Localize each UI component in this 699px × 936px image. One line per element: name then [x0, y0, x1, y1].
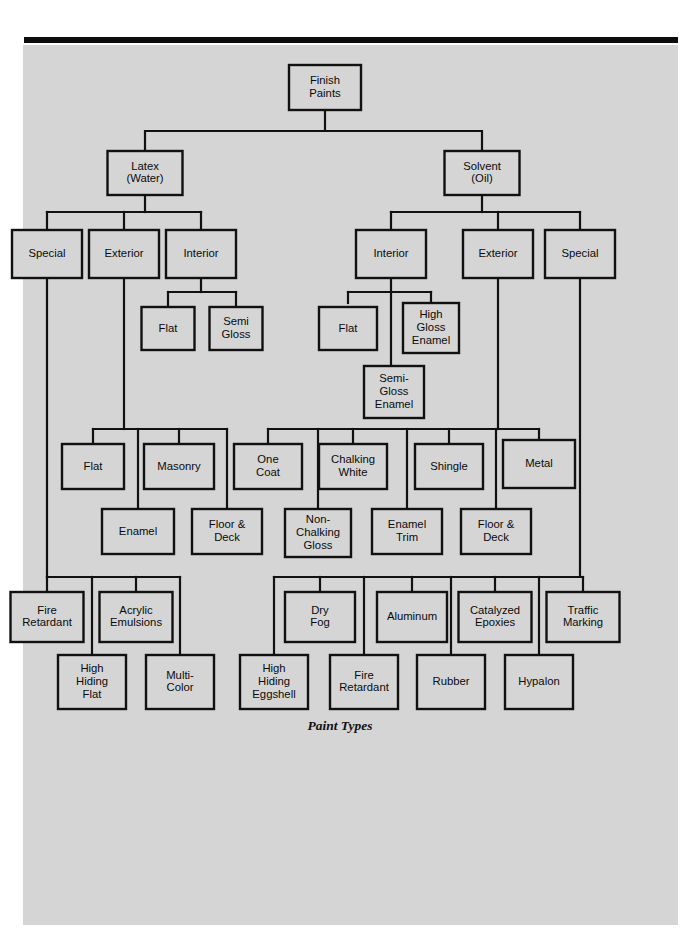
- node-label-le_masonry: Masonry: [157, 459, 201, 471]
- node-latex[interactable]: Latex(Water): [108, 151, 183, 195]
- node-finish_paints[interactable]: FinishPaints: [289, 65, 361, 110]
- node-latex_exterior[interactable]: Exterior: [89, 230, 159, 278]
- node-label-solvent_exterior: Exterior: [479, 247, 518, 259]
- diagram-caption: Paint Types: [307, 718, 372, 733]
- node-se_enamel_trim[interactable]: EnamelTrim: [372, 509, 442, 554]
- node-label-lsp_multi_color: Multi-Color: [166, 669, 194, 694]
- node-solvent[interactable]: Solvent(Oil): [445, 151, 520, 195]
- page-canvas: FinishPaintsLatex(Water)Solvent(Oil)Spec…: [0, 0, 699, 936]
- node-label-si_semi_gloss_enamel: Semi-GlossEnamel: [375, 372, 413, 409]
- node-lsp_acrylic_emulsions[interactable]: AcrylicEmulsions: [100, 592, 173, 642]
- paint-types-tree-diagram: FinishPaintsLatex(Water)Solvent(Oil)Spec…: [0, 0, 699, 936]
- node-layer: FinishPaintsLatex(Water)Solvent(Oil)Spec…: [11, 65, 620, 709]
- node-label-le_flat: Flat: [84, 459, 104, 471]
- node-label-latex_interior: Interior: [183, 247, 218, 259]
- node-label-ssp_catalyzed_epoxies: CatalyzedEpoxies: [470, 604, 520, 629]
- node-latex_interior[interactable]: Interior: [166, 230, 236, 278]
- node-si_high_gloss_enamel[interactable]: HighGlossEnamel: [403, 303, 459, 353]
- node-si_flat[interactable]: Flat: [319, 307, 377, 350]
- node-solvent_interior[interactable]: Interior: [356, 230, 426, 278]
- node-li_semi_gloss[interactable]: SemiGloss: [210, 307, 263, 350]
- node-ssp_fire_retardant[interactable]: FireRetardant: [330, 655, 398, 709]
- node-label-latex_special: Special: [28, 247, 65, 259]
- node-se_floor_deck[interactable]: Floor &Deck: [461, 509, 531, 554]
- node-ssp_dry_fog[interactable]: DryFog: [285, 592, 355, 642]
- connector-root-bus: [145, 110, 325, 151]
- node-label-finish_paints: FinishPaints: [309, 74, 341, 99]
- node-label-ssp_rubber: Rubber: [432, 675, 469, 687]
- node-ssp_catalyzed_epoxies[interactable]: CatalyzedEpoxies: [459, 592, 532, 642]
- node-label-ssp_dry_fog: DryFog: [310, 604, 329, 629]
- node-label-li_flat: Flat: [159, 321, 179, 333]
- node-lsp_high_hiding_flat[interactable]: HighHidingFlat: [58, 655, 126, 709]
- node-label-ssp_hypalon: Hypalon: [518, 675, 559, 687]
- node-label-ssp_aluminum: Aluminum: [387, 610, 437, 622]
- node-li_flat[interactable]: Flat: [142, 307, 195, 350]
- node-label-latex_exterior: Exterior: [105, 247, 144, 259]
- node-label-solvent_interior: Interior: [373, 247, 408, 259]
- node-lsp_fire_retardant[interactable]: FireRetardant: [11, 592, 84, 642]
- node-ssp_rubber[interactable]: Rubber: [417, 655, 485, 709]
- node-label-le_enamel: Enamel: [119, 524, 157, 536]
- node-le_floor_deck[interactable]: Floor &Deck: [192, 509, 262, 554]
- node-se_metal[interactable]: Metal: [503, 440, 575, 488]
- node-solvent_special[interactable]: Special: [545, 230, 615, 278]
- node-se_one_coat[interactable]: OneCoat: [234, 444, 302, 489]
- node-lsp_multi_color[interactable]: Multi-Color: [146, 655, 214, 709]
- node-label-latex: Latex(Water): [126, 160, 163, 185]
- node-label-solvent_special: Special: [561, 247, 598, 259]
- node-le_enamel[interactable]: Enamel: [102, 509, 174, 554]
- node-label-li_semi_gloss: SemiGloss: [222, 315, 251, 340]
- node-solvent_exterior[interactable]: Exterior: [463, 230, 533, 278]
- node-le_masonry[interactable]: Masonry: [144, 444, 214, 489]
- node-se_shingle[interactable]: Shingle: [415, 444, 483, 489]
- node-se_chalking_white[interactable]: ChalkingWhite: [319, 444, 387, 489]
- node-ssp_traffic_marking[interactable]: TrafficMarking: [547, 592, 620, 642]
- node-label-si_flat: Flat: [339, 321, 359, 333]
- node-ssp_hypalon[interactable]: Hypalon: [505, 655, 573, 709]
- node-le_flat[interactable]: Flat: [62, 444, 124, 489]
- node-ssp_high_hiding_eggshell[interactable]: HighHidingEggshell: [240, 655, 308, 709]
- connector-root-bus-right: [325, 131, 482, 151]
- node-si_semi_gloss_enamel[interactable]: Semi-GlossEnamel: [364, 366, 424, 418]
- node-se_non_chalking_gloss[interactable]: Non-ChalkingGloss: [285, 509, 351, 557]
- node-label-se_one_coat: OneCoat: [256, 453, 281, 478]
- node-latex_special[interactable]: Special: [12, 230, 82, 278]
- node-label-se_metal: Metal: [525, 457, 553, 469]
- node-label-ssp_traffic_marking: TrafficMarking: [563, 604, 603, 629]
- node-ssp_aluminum[interactable]: Aluminum: [377, 592, 447, 642]
- node-label-se_shingle: Shingle: [430, 459, 468, 471]
